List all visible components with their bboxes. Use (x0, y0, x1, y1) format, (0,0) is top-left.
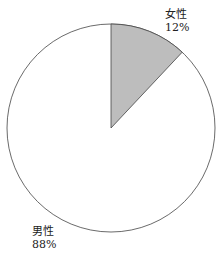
label-female-name: 女性 (165, 8, 189, 21)
label-male-percent: 88% (32, 238, 56, 251)
label-male: 男性 88% (32, 225, 56, 251)
pie-chart (0, 0, 219, 258)
label-male-name: 男性 (32, 225, 56, 238)
label-female-percent: 12% (165, 21, 189, 34)
label-female: 女性 12% (165, 8, 189, 34)
